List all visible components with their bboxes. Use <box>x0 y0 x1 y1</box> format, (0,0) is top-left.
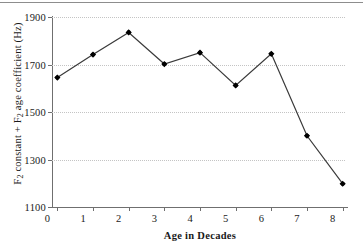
page-top-rule <box>0 2 363 3</box>
x-tick-label: 7 <box>287 213 307 224</box>
x-tick-label: 0 <box>37 213 57 224</box>
x-tick-mark <box>129 207 130 211</box>
y-axis-title-text: F <box>12 179 23 185</box>
figure-container: 19001700150013001100 012345678 Age in De… <box>0 0 363 248</box>
y-axis-title-text: constant + F <box>12 117 23 174</box>
y-axis-title: F2 constant + F2 age coefficient (Hz) <box>12 0 23 209</box>
x-tick-mark <box>200 207 201 211</box>
x-tick-mark <box>164 207 165 211</box>
x-tick-mark <box>93 207 94 211</box>
x-tick-mark <box>271 207 272 211</box>
x-tick-label: 2 <box>109 213 129 224</box>
y-tick-mark <box>48 160 52 161</box>
y-tick-label: 1500 <box>4 107 46 118</box>
y-tick-label: 1700 <box>4 59 46 70</box>
y-axis-title-subscript: 2 <box>16 174 25 178</box>
y-tick-label: 1300 <box>4 154 46 165</box>
x-tick-mark <box>57 207 58 211</box>
x-tick-label: 3 <box>144 213 164 224</box>
x-tick-label: 5 <box>216 213 236 224</box>
gridline <box>52 160 345 161</box>
y-axis-title-text: age coefficient (Hz) <box>12 22 23 113</box>
x-tick-mark <box>307 207 308 211</box>
y-tick-mark <box>48 65 52 66</box>
x-tick-mark <box>343 207 344 211</box>
y-tick-mark <box>48 207 52 208</box>
y-tick-mark <box>48 17 52 18</box>
y-tick-mark <box>48 112 52 113</box>
y-tick-label: 1100 <box>4 202 46 213</box>
x-tick-label: 1 <box>73 213 93 224</box>
x-tick-label: 4 <box>180 213 200 224</box>
gridline <box>52 17 345 18</box>
x-tick-label: 8 <box>323 213 343 224</box>
y-axis-title-subscript: 2 <box>16 113 25 117</box>
x-axis-title: Age in Decades <box>52 230 348 241</box>
y-tick-label: 1900 <box>4 12 46 23</box>
plot-area <box>52 17 348 207</box>
gridline <box>52 65 345 66</box>
gridline <box>52 112 345 113</box>
x-tick-mark <box>236 207 237 211</box>
x-tick-label: 6 <box>251 213 271 224</box>
